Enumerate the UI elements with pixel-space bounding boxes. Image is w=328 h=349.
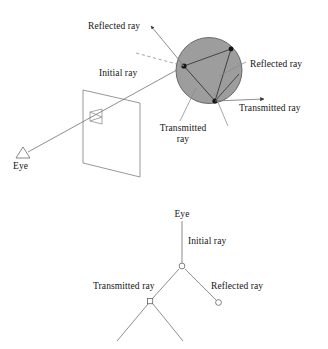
reflected-ray-up-line <box>151 26 184 66</box>
diagram-canvas <box>0 0 328 349</box>
tree-edge-child-right <box>153 304 183 341</box>
label-tree-initial-ray: Initial ray <box>188 236 226 246</box>
label-tree-reflected-ray: Reflected ray <box>211 281 263 291</box>
ray-tracing-diagram: Reflected ray Initial ray Reflected ray … <box>0 0 328 349</box>
label-reflected-ray-up: Reflected ray <box>88 21 140 31</box>
label-transmitted-ray-down-line2: ray <box>153 134 213 144</box>
tree-node-reflected-leaf <box>216 300 222 306</box>
tree-node-root <box>179 263 185 269</box>
tree-edge-child-left <box>117 304 148 341</box>
hit-point-top <box>229 47 234 52</box>
tree-edge-transmitted <box>152 269 179 299</box>
label-eye-tree: Eye <box>162 209 202 219</box>
label-initial-ray: Initial ray <box>99 68 137 78</box>
eye-triangle-icon <box>16 147 30 158</box>
label-transmitted-ray-right: Transmitted ray <box>239 103 301 113</box>
label-reflected-ray-right: Reflected ray <box>250 59 302 69</box>
label-transmitted-ray-down-line1: Transmitted <box>153 123 213 133</box>
label-eye-scene: Eye <box>13 161 28 171</box>
tree-node-transmitted <box>148 299 153 304</box>
view-plane-parallelogram <box>83 90 140 177</box>
surface-normal-dashed <box>136 53 184 66</box>
label-tree-transmitted-ray: Transmitted ray <box>93 281 155 291</box>
